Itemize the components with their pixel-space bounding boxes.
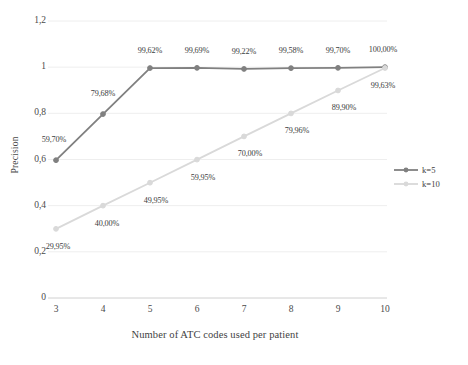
data-point-k=10-7 [242,134,247,139]
y-tick-label: 1 [12,62,46,72]
point-label-k=10-4: 40,00% [95,220,120,228]
data-point-k=5-7 [242,67,247,72]
legend: k=5k=10 [393,163,465,191]
point-label-k=5-8: 99,58% [279,47,304,55]
legend-swatch-icon [393,164,419,176]
point-label-k=5-4: 79,68% [91,90,116,98]
legend-item-k=10[interactable]: k=10 [393,177,465,191]
point-label-k=5-9: 99,70% [326,47,351,55]
data-point-k=5-3 [54,158,59,163]
y-tick-label: 0,4 [12,201,46,211]
point-label-k=5-6: 99,69% [185,47,210,55]
point-label-k=10-5: 49,95% [144,197,169,205]
point-label-k=5-10: 100,00% [369,46,398,54]
data-point-k=10-4 [101,203,106,208]
y-axis-title: Precision [10,110,20,200]
data-point-k=10-10 [383,66,388,71]
y-tick-label: 1,2 [12,16,46,26]
point-label-k=10-7: 70,00% [238,150,263,158]
data-point-k=10-3 [54,226,59,231]
legend-label: k=5 [422,166,435,175]
data-point-k=5-6 [195,65,200,70]
data-point-k=10-6 [195,157,200,162]
x-tick-label: 8 [276,305,306,315]
point-label-k=5-7: 99,22% [232,48,257,56]
data-point-k=5-4 [101,112,106,117]
data-point-k=10-5 [148,180,153,185]
y-tick-label: 0,2 [12,247,46,257]
y-tick-label: 0 [12,293,46,303]
data-point-k=10-8 [289,111,294,116]
x-tick-label: 7 [229,305,259,315]
x-tick-label: 3 [41,305,71,315]
data-point-k=5-8 [289,66,294,71]
point-label-k=10-10: 99,63% [371,82,396,90]
x-tick-label: 5 [135,305,165,315]
point-label-k=10-6: 59,95% [191,174,216,182]
x-tick-label: 9 [323,305,353,315]
point-label-k=10-8: 79,96% [285,127,310,135]
point-label-k=10-9: 89,90% [332,104,357,112]
x-axis-title: Number of ATC codes used per patient [45,329,385,340]
data-point-k=5-5 [148,66,153,71]
legend-label: k=10 [422,180,440,189]
data-point-k=5-9 [336,65,341,70]
point-label-k=5-5: 99,62% [138,47,163,55]
point-label-k=5-3: 59,70% [42,136,67,144]
point-label-k=10-3: 29,95% [46,243,71,251]
legend-item-k=5[interactable]: k=5 [393,163,465,177]
data-point-k=10-9 [336,88,341,93]
x-tick-label: 6 [182,305,212,315]
x-tick-label: 10 [370,305,400,315]
precision-line-chart: 00,20,40,60,811,2 345678910 59,70%79,68%… [0,0,468,365]
y-axis-ticks: 00,20,40,60,811,2 [0,0,46,365]
legend-swatch-icon [393,178,419,190]
x-tick-label: 4 [88,305,118,315]
